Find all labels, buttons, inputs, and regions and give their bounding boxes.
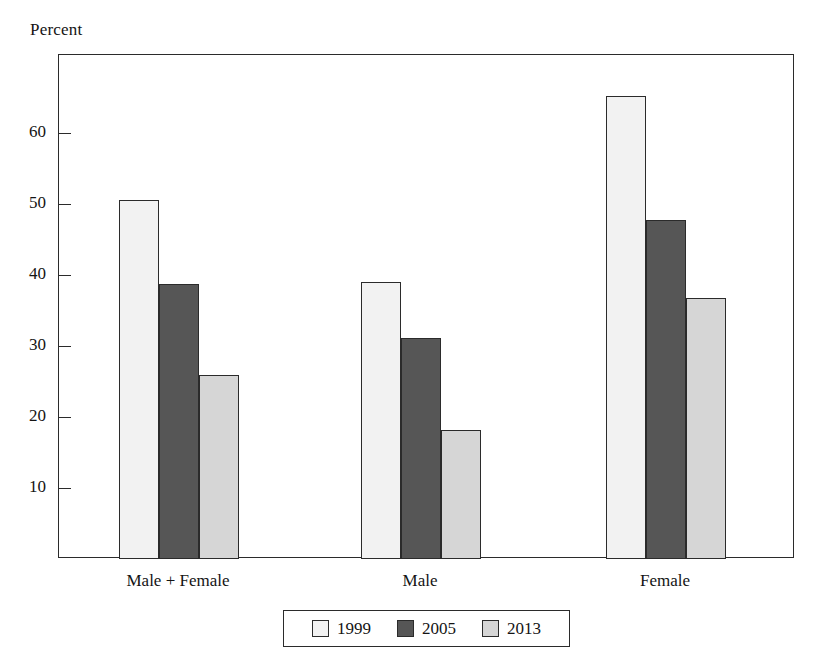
y-axis-tick [59, 275, 71, 276]
y-axis-tick-label: 20 [0, 407, 46, 424]
legend-swatch-icon [482, 620, 499, 637]
x-axis-category-label: Male + Female [126, 572, 229, 589]
y-axis-tick-label: 30 [0, 336, 46, 353]
bar [606, 96, 646, 559]
bar-chart-figure: Percent 102030405060 Male + FemaleMaleFe… [0, 0, 817, 671]
y-axis-tick [59, 346, 71, 347]
y-axis-tick [59, 417, 71, 418]
plot-area [58, 54, 794, 558]
bar [119, 200, 159, 559]
legend-item: 2005 [397, 620, 456, 637]
y-axis-tick [59, 488, 71, 489]
bar [646, 220, 686, 559]
bar [361, 282, 401, 559]
bar [199, 375, 239, 559]
chart-legend: 199920052013 [283, 610, 570, 647]
bar [441, 430, 481, 559]
x-axis-category-label: Female [640, 572, 690, 589]
legend-label: 1999 [337, 620, 371, 637]
y-axis-tick-label: 50 [0, 194, 46, 211]
y-axis-tick-label: 40 [0, 265, 46, 282]
legend-item: 2013 [482, 620, 541, 637]
legend-swatch-icon [397, 620, 414, 637]
y-axis-tick-label: 60 [0, 123, 46, 140]
legend-label: 2005 [422, 620, 456, 637]
y-axis-tick [59, 133, 71, 134]
x-axis-category-label: Male [403, 572, 438, 589]
y-axis-tick-label: 10 [0, 478, 46, 495]
y-axis-tick [59, 204, 71, 205]
bar [401, 338, 441, 559]
legend-swatch-icon [312, 620, 329, 637]
legend-item: 1999 [312, 620, 371, 637]
bar [159, 284, 199, 559]
bar [686, 298, 726, 559]
legend-label: 2013 [507, 620, 541, 637]
